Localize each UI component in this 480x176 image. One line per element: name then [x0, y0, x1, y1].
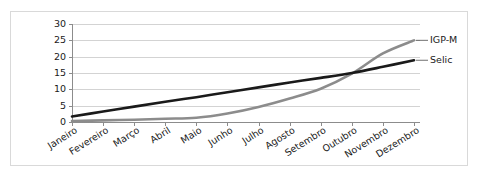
x-tick-label-maio: Maio [179, 124, 204, 145]
x-tick-label-março: Março [111, 124, 141, 149]
y-tick-label-0: 0 [60, 116, 66, 127]
y-tick-label-25: 25 [54, 34, 66, 45]
series-lines [72, 40, 414, 121]
y-tick-label-20: 20 [54, 51, 66, 62]
series-label-igp-m: IGP-M [430, 34, 457, 45]
series-labels: IGP-MSelic [416, 34, 457, 65]
line-chart: 051015202530 JaneiroFevereiroMarçoAbrilM… [0, 0, 480, 176]
y-tick-label-5: 5 [60, 100, 66, 111]
x-tick-label-abril: Abril [148, 124, 172, 145]
series-line-selic [72, 60, 414, 116]
y-axis-tick-labels: 051015202530 [54, 18, 66, 127]
x-tick-label-julho: Julho [239, 124, 266, 146]
x-tick-label-junho: Junho [205, 124, 234, 148]
y-tick-label-15: 15 [54, 67, 66, 78]
series-label-selic: Selic [430, 54, 452, 65]
y-tick-marks [69, 25, 72, 123]
y-tick-label-10: 10 [54, 83, 66, 94]
x-axis-tick-labels: JaneiroFevereiroMarçoAbrilMaioJunhoJulho… [45, 124, 422, 159]
y-tick-label-30: 30 [54, 18, 66, 29]
